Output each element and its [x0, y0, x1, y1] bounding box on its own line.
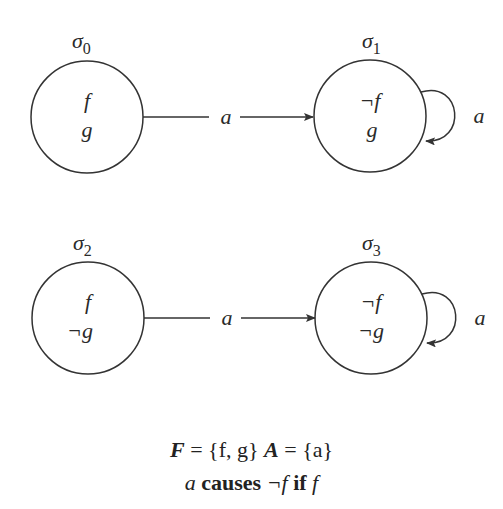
- state-sigma2: σ2 f ¬g: [32, 230, 144, 374]
- if-keyword: if: [293, 470, 306, 495]
- fluent-not-f: ¬f: [361, 289, 385, 314]
- state-label-sigma1: σ1: [362, 28, 381, 57]
- fluent-set-value: = {f, g}: [190, 437, 258, 462]
- fluent-not-f: ¬f: [360, 88, 384, 113]
- causes-keyword: causes: [201, 470, 261, 495]
- transition-diagram: σ0 f g σ1 ¬f g σ2 f ¬g σ3 ¬f ¬g a a a: [0, 0, 503, 509]
- law-condition: f: [312, 470, 318, 495]
- state-label-sigma2: σ2: [73, 230, 92, 259]
- caption-line-1: F = {f, g} A = {a}: [0, 437, 503, 463]
- edge-label: a: [475, 305, 486, 330]
- law-effect: ¬f: [267, 470, 288, 495]
- state-label-sigma0: σ0: [72, 28, 91, 57]
- self-loop-sigma1: a: [421, 90, 485, 141]
- fluent-f: f: [85, 289, 94, 314]
- state-circle: [314, 60, 426, 172]
- fluent-set-symbol: F: [170, 437, 185, 462]
- state-label-sigma3: σ3: [362, 230, 381, 259]
- self-loop-sigma3: a: [422, 292, 486, 343]
- fluent-f: f: [84, 88, 93, 113]
- action-set-value: = {a}: [284, 437, 333, 462]
- state-sigma0: σ0 f g: [31, 28, 143, 173]
- fluent-g: g: [367, 117, 378, 142]
- fluent-not-g: ¬g: [67, 318, 93, 343]
- edge-label: a: [222, 305, 233, 330]
- edge-label: a: [221, 104, 232, 129]
- action-set-symbol: A: [264, 437, 279, 462]
- state-sigma1: σ1 ¬f g: [314, 28, 426, 172]
- caption-line-2: a causes ¬f if f: [0, 470, 503, 496]
- state-sigma3: σ3 ¬f ¬g: [315, 230, 427, 374]
- transition-sigma0-sigma1: a: [143, 104, 313, 129]
- edge-label: a: [474, 103, 485, 128]
- fluent-not-g: ¬g: [358, 318, 384, 343]
- fluent-g: g: [82, 117, 93, 142]
- law-action: a: [185, 470, 196, 495]
- transition-sigma2-sigma3: a: [144, 305, 315, 330]
